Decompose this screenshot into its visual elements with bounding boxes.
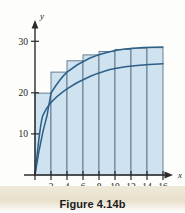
bar-6-8 (83, 55, 99, 175)
figure-caption: Figure 4.14b (0, 198, 185, 210)
x-axis-label: x (177, 170, 182, 180)
riemann-sum-chart: 30 20 10 2 4 6 8 10 12 14 16 y x (0, 0, 185, 188)
figure-container: 30 20 10 2 4 6 8 10 12 14 16 y x Figure … (0, 0, 185, 213)
bar-4-6 (67, 61, 83, 175)
bar-14-16 (147, 48, 163, 175)
y-tick-label-30: 30 (19, 37, 29, 47)
y-tick-label-10: 10 (19, 129, 29, 139)
bar-12-14 (131, 48, 147, 175)
bar-2-4 (51, 72, 67, 175)
riemann-rectangles (35, 48, 163, 175)
y-tick-label-20: 20 (19, 88, 29, 98)
y-axis-label: y (39, 11, 44, 21)
